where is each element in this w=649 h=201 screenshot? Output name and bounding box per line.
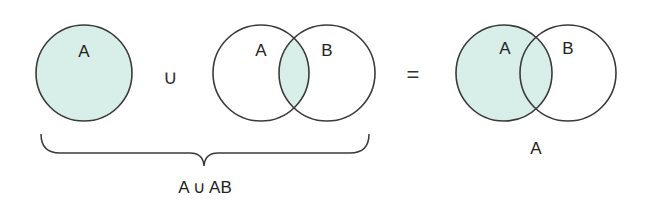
label-b: B bbox=[562, 39, 573, 58]
label-a: A bbox=[78, 42, 90, 61]
label-b: B bbox=[321, 41, 332, 60]
label-a: A bbox=[255, 41, 267, 60]
venn-diagram: A ∪ A B A ∪ AB = A B A bbox=[0, 0, 649, 201]
panel-intersection-ab: A B bbox=[213, 25, 375, 121]
circle-a bbox=[36, 25, 132, 121]
panel-set-a: A bbox=[36, 25, 132, 121]
label-a: A bbox=[499, 39, 511, 58]
brace-caption: A ∪ AB bbox=[178, 178, 232, 197]
equals-operator: = bbox=[407, 62, 420, 87]
brace bbox=[41, 134, 369, 166]
union-operator: ∪ bbox=[163, 66, 178, 88]
result-caption: A bbox=[530, 139, 542, 158]
panel-result-a: A B A bbox=[456, 25, 616, 158]
